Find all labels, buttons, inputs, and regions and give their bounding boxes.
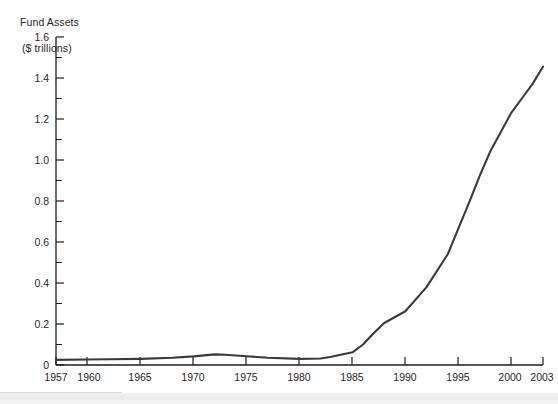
y-tick-label: 0.4 xyxy=(34,277,49,289)
data-line-fund-assets xyxy=(56,67,543,360)
x-tick-label: 2000 xyxy=(498,371,522,383)
x-tick-label: 1965 xyxy=(128,371,152,383)
y-axis-ticks xyxy=(56,37,64,365)
x-tick-label: 1980 xyxy=(287,371,311,383)
x-tick-label: 2003 xyxy=(530,371,554,383)
x-tick-label: 1957 xyxy=(44,371,68,383)
x-tick-label: 1970 xyxy=(181,371,205,383)
scan-artifact-band xyxy=(0,393,558,404)
x-tick-label: 1960 xyxy=(77,371,101,383)
y-tick-label: 1.0 xyxy=(34,154,49,166)
chart-figure: Fund Assets ($ trillions) xyxy=(0,0,558,404)
x-axis-tick-labels: 1957 1960 1965 1970 1975 1980 1985 1990 … xyxy=(44,371,554,383)
y-axis-title-line2: ($ trillions) xyxy=(8,42,79,55)
x-tick-label: 1975 xyxy=(234,371,258,383)
y-tick-label: 0.6 xyxy=(34,236,49,248)
y-tick-label: 0 xyxy=(43,359,49,371)
plot-area: 0 0.2 0.4 0.6 0.8 1.0 1.2 1.4 1.6 195 xyxy=(0,0,558,404)
x-tick-label: 1985 xyxy=(340,371,364,383)
y-axis-tick-labels: 0 0.2 0.4 0.6 0.8 1.0 1.2 1.4 1.6 xyxy=(34,31,49,371)
y-axis-title: Fund Assets ($ trillions) xyxy=(8,3,79,81)
y-axis-title-line1: Fund Assets xyxy=(20,16,79,28)
x-tick-label: 1990 xyxy=(393,371,417,383)
x-tick-label: 1995 xyxy=(446,371,470,383)
y-tick-label: 1.2 xyxy=(34,113,49,125)
y-tick-label: 0.2 xyxy=(34,318,49,330)
y-tick-label: 0.8 xyxy=(34,195,49,207)
